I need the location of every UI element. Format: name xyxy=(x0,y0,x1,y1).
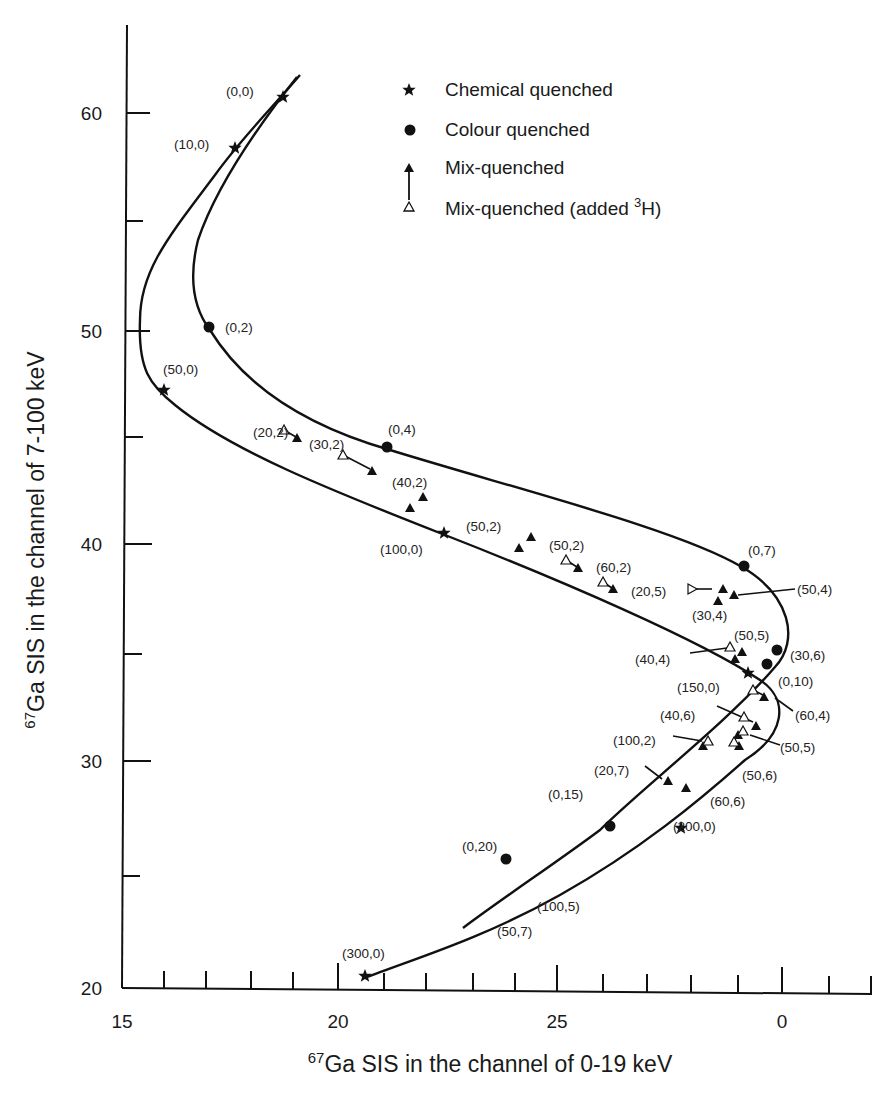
point-label: (0,0) xyxy=(226,84,254,99)
point-label: (300,0) xyxy=(342,946,385,961)
x-tick-label: 15 xyxy=(111,1011,132,1032)
circle-marker-icon xyxy=(772,645,783,656)
point-label: (0,20) xyxy=(462,839,497,854)
point-label: (60,6) xyxy=(710,794,745,809)
y-axis-title: 67Ga SIS in the channel of 7-100 keV xyxy=(21,351,49,729)
filled-triangle-marker-icon xyxy=(681,783,691,792)
filled-triangle-marker-icon xyxy=(608,584,618,593)
filled-triangle-marker-icon xyxy=(405,503,415,512)
filled-triangle-marker-icon xyxy=(729,590,739,599)
circle-icon xyxy=(405,125,416,136)
point-label: (40,6) xyxy=(660,708,695,723)
filled-triangle-marker-icon xyxy=(737,647,747,656)
point-label: (150,0) xyxy=(677,680,720,695)
filled-triangle-marker-icon xyxy=(526,532,536,541)
chart: 15202506050403020 (0,0)(10,0)(0,2)(50,0)… xyxy=(0,0,894,1103)
y-tick-label: 20 xyxy=(81,978,102,999)
legend: Chemical quenched Colour quenched Mix-qu… xyxy=(402,79,661,219)
star-marker-icon xyxy=(358,969,371,982)
y-tick-label: 40 xyxy=(81,534,102,555)
x-axis xyxy=(122,963,872,994)
point-label: (100,2) xyxy=(613,733,656,748)
point-label: (50,6) xyxy=(742,768,777,783)
point-label: (10,0) xyxy=(174,137,209,152)
open-triangle-marker-icon xyxy=(738,726,748,735)
point-label: (50,4) xyxy=(797,582,832,597)
legend-label: Chemical quenched xyxy=(445,79,613,100)
point-label: (50,0) xyxy=(163,362,198,377)
star-marker-icon xyxy=(741,666,754,679)
circle-marker-icon xyxy=(204,322,215,333)
point-label: (50,5) xyxy=(780,740,815,755)
y-tick-label: 30 xyxy=(81,751,102,772)
point-label: (0,10) xyxy=(778,674,813,689)
y-tick-label: 60 xyxy=(81,103,102,124)
point-label: (30,2) xyxy=(309,437,344,452)
y-tick-label: 50 xyxy=(81,321,102,342)
open-triangle-icon xyxy=(404,202,414,211)
legend-label: Colour quenched xyxy=(445,119,590,140)
filled-triangle-marker-icon xyxy=(713,596,723,605)
tick-labels: 15202506050403020 xyxy=(81,103,787,1032)
legend-label: Mix-quenched (added 3H) xyxy=(445,195,661,219)
star-icon xyxy=(402,83,415,96)
point-label: (0,4) xyxy=(388,422,416,437)
point-label: (100,0) xyxy=(380,542,423,557)
filled-triangle-marker-icon xyxy=(718,584,728,593)
circle-marker-icon xyxy=(501,854,512,865)
legend-item-mix-3h: Mix-quenched (added 3H) xyxy=(404,195,661,219)
point-label: (0,2) xyxy=(225,320,253,335)
legend-item-chemical: Chemical quenched xyxy=(402,79,613,100)
point-label: (30,4) xyxy=(692,608,727,623)
filled-triangle-marker-icon xyxy=(292,433,302,442)
point-label: (0,15) xyxy=(548,787,583,802)
x-tick-label: 0 xyxy=(777,1011,788,1032)
x-tick-label: 20 xyxy=(327,1011,348,1032)
legend-item-colour: Colour quenched xyxy=(405,119,590,140)
point-label: (50,2) xyxy=(466,519,501,534)
point-label: (20,5) xyxy=(631,584,666,599)
point-label: (200,0) xyxy=(673,819,716,834)
point-label: (50,2) xyxy=(549,538,584,553)
open-triangle-marker-icon xyxy=(725,642,735,651)
point-label: (30,6) xyxy=(790,648,825,663)
point-label: (100,5) xyxy=(537,899,580,914)
point-label: (60,4) xyxy=(795,708,830,723)
point-label: (20,2) xyxy=(253,425,288,440)
open-triangle-marker-icon xyxy=(561,555,571,564)
filled-triangle-marker-icon xyxy=(573,563,583,572)
circle-marker-icon xyxy=(762,659,773,670)
point-label: (20,7) xyxy=(594,763,629,778)
point-label: (60,2) xyxy=(596,560,631,575)
circle-marker-icon xyxy=(605,821,616,832)
filled-triangle-marker-icon xyxy=(663,776,673,785)
point-label: (40,4) xyxy=(635,652,670,667)
legend-item-mix: Mix-quenched xyxy=(404,157,564,200)
point-label: (50,7) xyxy=(497,924,532,939)
x-tick-label: 25 xyxy=(546,1011,567,1032)
filled-triangle-marker-icon xyxy=(514,543,524,552)
point-label: (40,2) xyxy=(392,475,427,490)
point-label: (50,5) xyxy=(734,628,769,643)
open-triangle-marker-icon xyxy=(688,584,697,594)
filled-triangle-marker-icon xyxy=(418,492,428,501)
point-label: (0,7) xyxy=(748,543,776,558)
legend-label: Mix-quenched xyxy=(445,157,564,178)
open-triangle-marker-icon xyxy=(598,577,608,586)
circle-marker-icon xyxy=(382,442,393,453)
y-axis xyxy=(122,25,152,988)
x-axis-title: 67Ga SIS in the channel of 0-19 keV xyxy=(308,1049,673,1077)
circle-marker-icon xyxy=(739,561,750,572)
